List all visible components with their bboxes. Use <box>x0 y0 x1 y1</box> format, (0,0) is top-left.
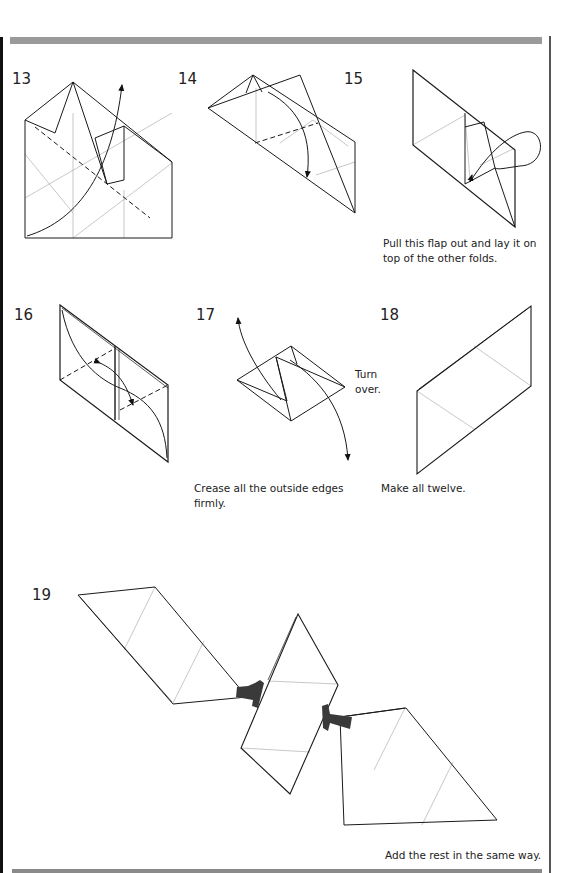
step-13-diagram <box>25 82 172 238</box>
step-14-diagram <box>208 75 355 213</box>
step-16-diagram <box>60 305 168 462</box>
step-15-diagram <box>413 70 541 227</box>
connector-tab-right <box>322 704 352 731</box>
step-17-diagram <box>237 318 348 460</box>
step-18-diagram <box>417 306 531 474</box>
step-19-connectors <box>236 680 352 731</box>
step-19-diagram <box>78 587 497 825</box>
diagram-canvas <box>0 0 579 873</box>
